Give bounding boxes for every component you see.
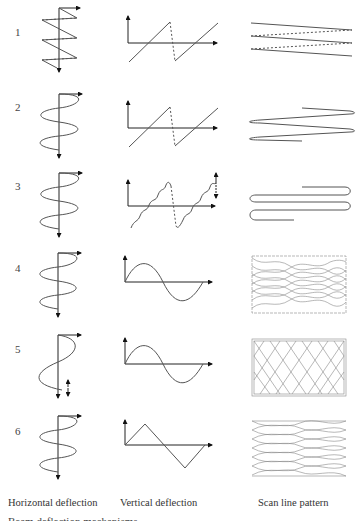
row4-vertical-deflection <box>125 256 212 301</box>
caption-horizontal-deflection: Horizontal deflection <box>8 497 98 508</box>
row-number-4: 4 <box>15 262 21 274</box>
row2-scan-pattern <box>250 108 355 141</box>
caption-scan-line-pattern: Scan line pattern <box>258 497 329 508</box>
caption-vertical-deflection: Vertical deflection <box>120 497 197 508</box>
row1-scan-pattern <box>251 23 352 56</box>
row-number-1: 1 <box>15 26 21 38</box>
row6-horizontal-deflection <box>40 416 81 479</box>
row2-vertical-deflection <box>128 101 218 147</box>
row3-scan-pattern <box>250 187 350 220</box>
row6-vertical-deflection <box>125 420 212 468</box>
row5-vertical-deflection <box>125 338 212 383</box>
row1-horizontal-deflection <box>42 8 80 72</box>
row-number-5: 5 <box>15 343 21 355</box>
row-number-3: 3 <box>15 180 21 192</box>
deflection-figure <box>0 0 364 521</box>
row1-vertical-deflection <box>128 16 218 62</box>
row5-scan-pattern <box>252 339 346 396</box>
row4-horizontal-deflection <box>40 253 81 317</box>
row-number-6: 6 <box>15 425 21 437</box>
row2-horizontal-deflection <box>40 94 82 158</box>
row3-horizontal-deflection <box>40 173 82 237</box>
row3-vertical-deflection <box>128 173 216 228</box>
row-number-2: 2 <box>15 101 21 113</box>
row6-scan-pattern <box>252 421 346 476</box>
row5-horizontal-deflection <box>39 335 81 398</box>
row4-scan-pattern <box>252 256 346 313</box>
truncated-figure-caption: Beam deflection mechanisms <box>8 514 138 521</box>
